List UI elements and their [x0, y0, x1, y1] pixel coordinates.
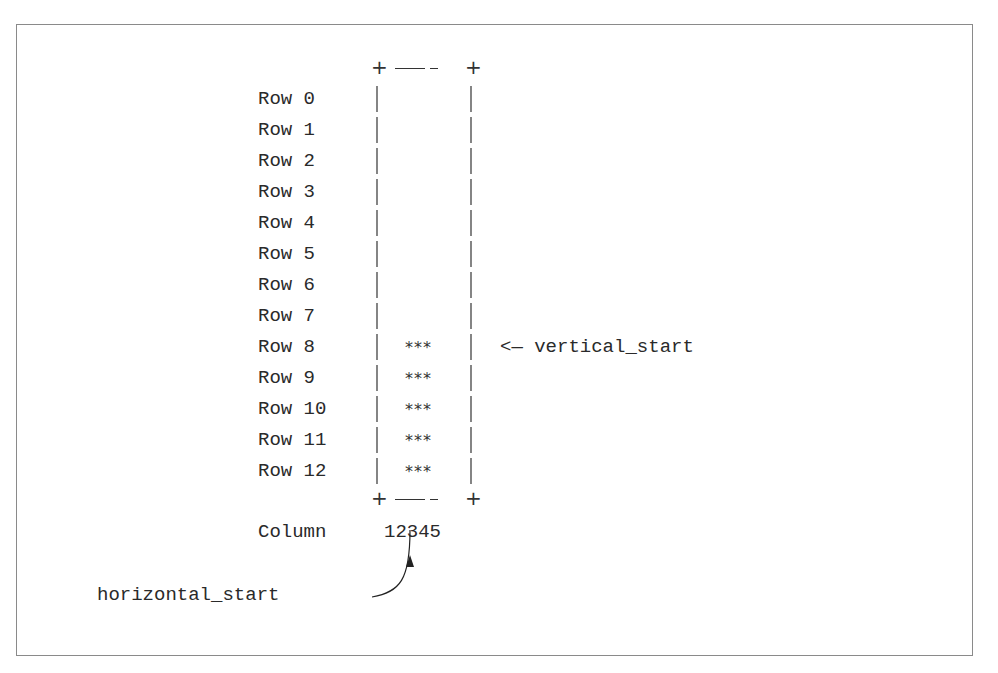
horizontal-start-annotation: horizontal_start — [97, 584, 279, 606]
grid-corner-bottom-left: + — [371, 488, 388, 508]
column-numbers: 12345 — [384, 521, 441, 543]
grid-corner-bottom-right: + — [465, 488, 482, 508]
grid-bottom-dash — [395, 499, 425, 500]
arrowhead-icon — [406, 555, 414, 567]
grid-lines — [0, 0, 998, 673]
grid-bottom-dash-short — [430, 499, 438, 500]
vertical-start-annotation: <— vertical_start — [500, 336, 694, 358]
column-label: Column — [258, 521, 326, 543]
